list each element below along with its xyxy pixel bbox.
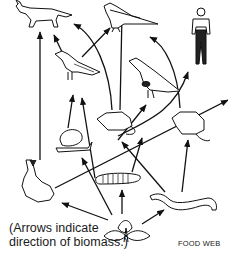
diagram-title: FOOD WEB: [178, 239, 220, 248]
quail-illustration: [129, 58, 180, 98]
caterpillar-illustration: [96, 173, 141, 184]
rabbit-illustration: [22, 160, 54, 202]
hawk-illustration: [104, 3, 158, 32]
caption-line-1: (Arrows indicate: [9, 221, 128, 235]
rat-illustration: [172, 112, 210, 141]
earthworm-illustration: [150, 194, 217, 210]
songbird-illustration: [55, 51, 100, 80]
fox-illustration: [16, 0, 72, 27]
human-illustration: [192, 8, 210, 64]
food-web-diagram: [0, 0, 228, 256]
caption: (Arrows indicate direction of biomass.): [9, 221, 128, 249]
snail-illustration: [56, 130, 92, 152]
caption-line-2: direction of biomass.): [9, 235, 128, 249]
